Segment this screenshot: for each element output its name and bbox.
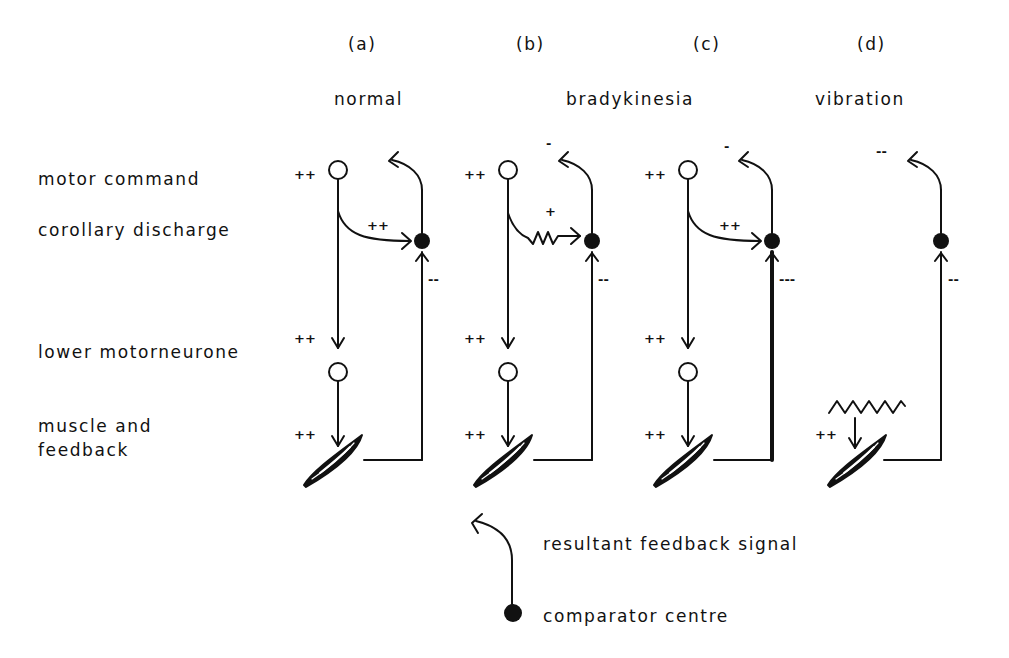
panel-d-diagram — [828, 152, 949, 487]
panel-c-lmn-icon — [679, 363, 697, 381]
legend-resultant-arrow-icon — [476, 521, 512, 604]
panel-a-muscle-icon — [304, 435, 362, 487]
vibration-stimulus-icon — [829, 401, 905, 413]
panel-a-comparator-icon — [414, 233, 430, 249]
panel-b-comparator-icon — [584, 233, 600, 249]
diagram-canvas — [0, 0, 1009, 658]
panel-c-diagram — [654, 152, 780, 487]
panel-d-comparator-icon — [933, 233, 949, 249]
legend-symbols — [472, 514, 522, 622]
legend-comparator-icon — [504, 604, 522, 622]
panel-b-motor-neuron-icon — [499, 161, 517, 179]
panel-b-lmn-icon — [499, 363, 517, 381]
panel-a-diagram — [304, 152, 430, 487]
panel-c-comparator-icon — [764, 233, 780, 249]
panel-c-motor-neuron-icon — [679, 161, 697, 179]
panel-a-motor-neuron-icon — [329, 161, 347, 179]
panel-a-lmn-icon — [329, 363, 347, 381]
panel-b-muscle-icon — [474, 435, 532, 487]
panel-b-reduced-corollary-path — [508, 213, 580, 244]
panel-b-diagram — [474, 152, 600, 487]
panel-c-muscle-icon — [654, 435, 712, 487]
